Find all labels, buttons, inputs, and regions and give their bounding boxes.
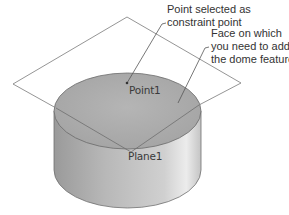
face-callout-line-3: the dome feature: [211, 53, 289, 66]
point1-label: Point1: [129, 85, 161, 96]
face-callout-line-1: Face on which: [211, 27, 289, 40]
plane1-label: Plane1: [128, 151, 162, 162]
top-face[interactable]: [54, 73, 201, 149]
diagram-canvas: Point selected as constraint point Face …: [0, 0, 289, 215]
face-callout: Face on which you need to add the dome f…: [211, 27, 289, 66]
face-callout-line-2: you need to add: [211, 40, 289, 53]
point-callout: Point selected as constraint point: [167, 3, 251, 29]
point1-marker[interactable]: [126, 82, 129, 85]
point-callout-line-1: Point selected as: [167, 3, 251, 16]
